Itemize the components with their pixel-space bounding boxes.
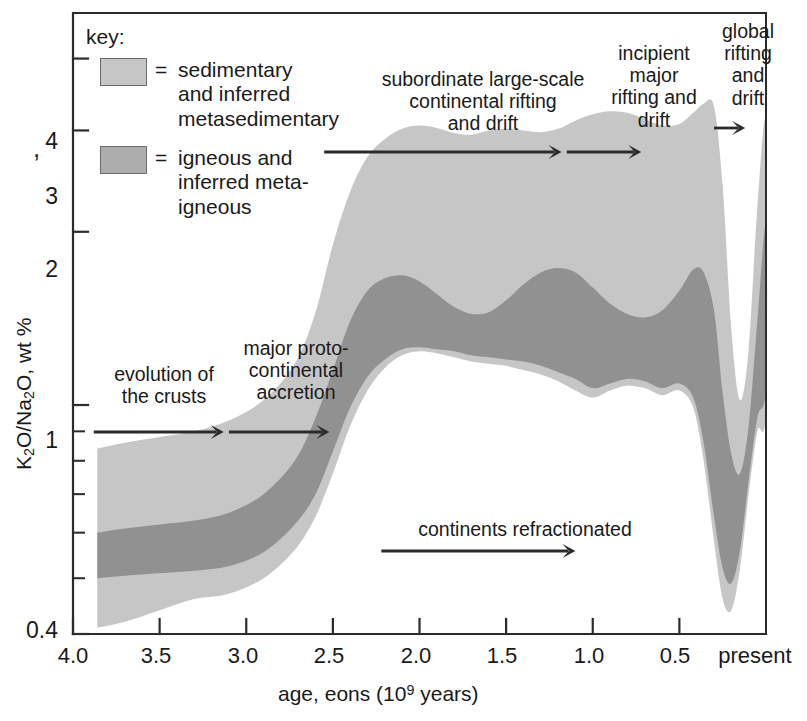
- legend-label-sedimentary: sedimentaryand inferredmetasedimentary: [178, 58, 339, 131]
- arrow-global-rifting-and-drift: [714, 121, 745, 135]
- y-tick-2: 2: [18, 256, 58, 283]
- annotation-continents-refractionated: continents refractionated: [400, 518, 650, 540]
- x-tick-2.5: 2.5: [297, 643, 361, 669]
- x-tick-present: present: [705, 643, 805, 669]
- annotation-global-rifting-and-drift: globalriftinganddrift: [707, 20, 789, 109]
- x-tick-1.5: 1.5: [470, 643, 534, 669]
- x-tick-3.0: 3.0: [211, 643, 275, 669]
- arrow-continents-refractionated: [381, 544, 575, 558]
- legend-swatch-sedimentary: [100, 58, 147, 86]
- annotation-major-protocontinental-accretion: major proto-continentalaccretion: [216, 337, 376, 404]
- chart-figure: K2O/Na2O, wt % , 4 3 2 1 0.4 4.0 3.5 3.0…: [0, 0, 807, 721]
- y-tick-1: 1: [18, 427, 58, 454]
- y-tick-3: 3: [18, 183, 58, 210]
- y-tick-4: 4: [18, 128, 58, 155]
- legend-label-igneous: igneous andinferred meta-igneous: [178, 146, 309, 219]
- legend-title: key:: [86, 25, 125, 49]
- legend-equals-igneous: =: [155, 146, 167, 170]
- annotation-incipient-major-rifting: incipientmajorrifting anddrift: [600, 42, 708, 131]
- annotation-subordinate-large-scale-rifting: subordinate large-scalecontinental rifti…: [338, 68, 628, 135]
- legend-swatch-igneous: [100, 146, 147, 174]
- x-tick-3.5: 3.5: [124, 643, 188, 669]
- x-tick-4.0: 4.0: [41, 643, 105, 669]
- x-tick-1.0: 1.0: [557, 643, 621, 669]
- legend-equals-sedimentary: =: [155, 58, 167, 82]
- y-tick-0.4: 0.4: [6, 617, 58, 644]
- x-tick-0.5: 0.5: [643, 643, 707, 669]
- x-tick-2.0: 2.0: [384, 643, 448, 669]
- x-axis-label: age, eons (109 years): [278, 682, 479, 706]
